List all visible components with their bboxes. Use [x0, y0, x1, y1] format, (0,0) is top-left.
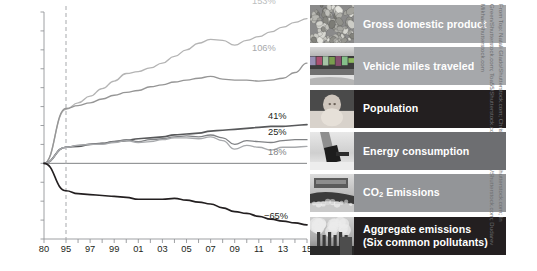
legend-item-6: Aggregate emissions(Six common pollutant… — [310, 217, 506, 255]
photo-credit: From Top: Natali Glado/Shutterstock.com;… — [478, 0, 506, 271]
car-exhaust-photo — [310, 174, 354, 212]
legend-label-line2: (Six common pollutants) — [363, 236, 488, 249]
x-tick-label: 99 — [101, 245, 127, 254]
x-tick-label: 01 — [125, 245, 151, 254]
legend-label-tail: Emissions — [383, 186, 439, 198]
legend-label: Population — [363, 102, 418, 115]
series-end-label: 18% — [268, 148, 287, 157]
series-end-label: 153% — [252, 0, 276, 6]
series-end-label: −65% — [264, 212, 288, 221]
legend-label: Energy consumption — [363, 145, 469, 158]
x-tick-label: 07 — [198, 245, 224, 254]
legend-label: Vehicle miles traveled — [363, 60, 474, 73]
legend-item-1: Gross domestic product — [310, 5, 506, 43]
x-tick-label: 09 — [222, 245, 248, 254]
legend-label: Aggregate emissions(Six common pollutant… — [363, 223, 488, 248]
chart-figure: 160%140%120%100%80%60%40%20%0%−20%−40%−6… — [0, 0, 537, 271]
legend-label-main: CO — [363, 186, 379, 198]
series-end-label: 25% — [268, 128, 287, 137]
x-tick-label: 13 — [270, 245, 296, 254]
traffic-cars-photo — [310, 47, 354, 85]
gravel-coins-photo — [310, 5, 354, 43]
electric-plug-photo — [310, 132, 354, 170]
legend-panel: Gross domestic productVehicle miles trav… — [310, 5, 506, 260]
legend-item-2: Vehicle miles traveled — [310, 47, 506, 85]
series-end-label: 41% — [268, 112, 287, 121]
line-chart-svg — [0, 0, 312, 271]
x-tick-label: 95 — [53, 245, 79, 254]
legend-item-5: CO2 Emissions — [310, 174, 506, 212]
plot-area: 160%140%120%100%80%60%40%20%0%−20%−40%−6… — [0, 0, 312, 271]
x-tick-label: 97 — [77, 245, 103, 254]
x-tick-label: 05 — [174, 245, 200, 254]
x-tick-label: 11 — [246, 245, 272, 254]
legend-label-line1: Aggregate emissions — [363, 223, 488, 236]
legend-label: Gross domestic product — [363, 18, 487, 31]
smokestacks-photo — [310, 217, 354, 255]
legend-item-4: Energy consumption — [310, 132, 506, 170]
series-end-label: 106% — [252, 44, 276, 53]
legend-label: CO2 Emissions — [363, 186, 440, 200]
x-tick-label: 03 — [149, 245, 175, 254]
baby-photo — [310, 90, 354, 128]
legend-item-3: Population — [310, 90, 506, 128]
